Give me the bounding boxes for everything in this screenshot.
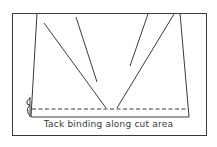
fold-line-left-long — [44, 23, 106, 108]
fold-line-left-short — [76, 17, 97, 82]
diagram-caption: Tack binding along cut area — [0, 119, 217, 129]
binding-clip-icon — [27, 97, 30, 117]
fold-line-right-short — [130, 14, 148, 66]
fold-line-right-long — [117, 14, 174, 108]
